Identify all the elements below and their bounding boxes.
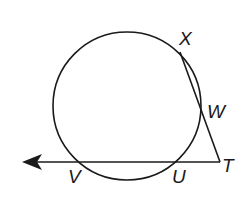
label-u: U (172, 167, 186, 186)
label-v: V (68, 167, 81, 186)
geometry-diagram: X W T U V (0, 0, 251, 203)
label-w: W (207, 102, 225, 121)
label-x: X (179, 29, 192, 48)
circle (53, 32, 201, 180)
label-t: T (222, 156, 234, 175)
